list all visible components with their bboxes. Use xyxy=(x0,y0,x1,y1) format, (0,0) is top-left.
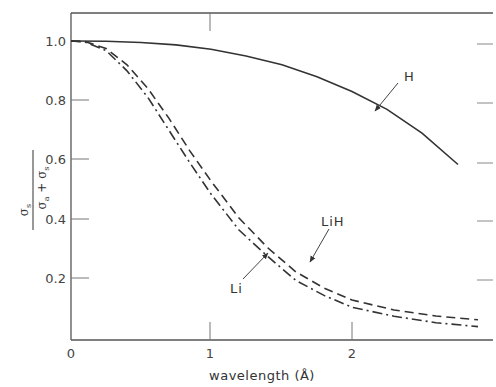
x-tick-label-1: 1 xyxy=(206,346,214,361)
arrow-Li xyxy=(243,253,268,279)
y-title-numerator: σs xyxy=(17,204,33,216)
curve-H xyxy=(71,41,458,165)
y-ticks-right xyxy=(477,44,493,280)
x-tick-label-0: 0 xyxy=(67,346,75,361)
y-tick-label-0.4: 0.4 xyxy=(45,212,66,227)
scattering-ratio-chart: 1.0 0.8 0.6 0.4 0.2 0 1 2 wavelength (Å)… xyxy=(0,0,496,387)
y-tick-label-0.6: 0.6 xyxy=(45,152,66,167)
curve-Li xyxy=(71,41,478,327)
curve-LiH xyxy=(71,41,478,320)
y-tick-label-0.8: 0.8 xyxy=(45,93,66,108)
annotation-H: H xyxy=(404,69,415,84)
y-tick-label-0.2: 0.2 xyxy=(45,271,66,286)
plot-frame xyxy=(71,13,493,340)
y-title-denominator: σa + σs xyxy=(35,167,51,210)
annotation-LiH: LiH xyxy=(321,214,345,229)
annotation-Li: Li xyxy=(230,281,243,296)
y-ticks-left xyxy=(71,100,89,278)
arrow-LiH xyxy=(310,229,329,262)
y-tick-label-1.0: 1.0 xyxy=(45,34,66,49)
arrow-H xyxy=(375,83,398,111)
x-axis-title: wavelength (Å) xyxy=(209,368,315,383)
x-tick-label-2: 2 xyxy=(348,346,356,361)
